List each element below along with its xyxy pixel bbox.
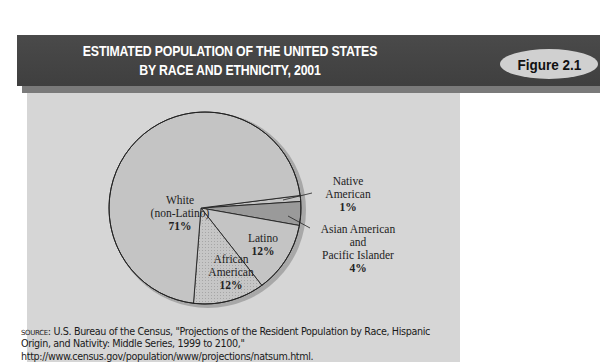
label-asian-name: Asian American (302, 223, 414, 236)
label-asian-sub: Pacific Islander (302, 249, 414, 262)
label-latino: Latino 12% (233, 232, 293, 258)
label-asian: Asian American and Pacific Islander 4% (302, 223, 414, 275)
source-line1: SOURCE: U.S. Bureau of the Census, "Proj… (21, 326, 461, 338)
pie-chart (0, 0, 600, 362)
label-african-american: African American 12% (196, 253, 266, 292)
source-note: SOURCE: U.S. Bureau of the Census, "Proj… (21, 326, 461, 362)
label-african-american-sub: American (196, 266, 266, 279)
label-native-american-sub: American (307, 188, 389, 201)
label-native-american: Native American 1% (307, 175, 389, 214)
label-latino-pct: 12% (233, 245, 293, 258)
source-prefix: SOURCE: (21, 326, 51, 337)
label-white-name: White (130, 194, 230, 207)
label-asian-and: and (302, 236, 414, 249)
source-line1-text: U.S. Bureau of the Census, "Projections … (51, 326, 430, 337)
label-asian-pct: 4% (302, 262, 414, 275)
label-white-pct: 71% (130, 220, 230, 233)
label-white: White (non-Latino) 71% (130, 194, 230, 233)
label-native-american-name: Native (307, 175, 389, 188)
source-line2: Origin, and Nativity: Middle Series, 199… (21, 338, 461, 350)
label-native-american-pct: 1% (307, 201, 389, 214)
label-latino-name: Latino (233, 232, 293, 245)
source-url: http://www.census.gov/population/www/pro… (21, 351, 461, 362)
label-african-american-pct: 12% (196, 279, 266, 292)
label-white-sub: (non-Latino) (130, 207, 230, 220)
